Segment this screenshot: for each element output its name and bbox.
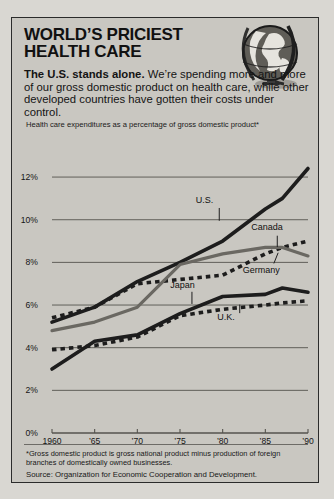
divider <box>24 444 308 445</box>
deck-text: The U.S. stands alone. We’re spending mo… <box>24 68 310 118</box>
y-axis-tick-label: 12% <box>12 172 38 182</box>
series-label-uk: U.K. <box>217 312 235 322</box>
series-label-us: U.S. <box>196 195 214 205</box>
y-axis-tick-label: 6% <box>12 300 38 310</box>
y-axis-tick-label: 10% <box>12 215 38 225</box>
series-label-canada: Canada <box>251 222 283 232</box>
source-line: Source: Organization for Economic Cooper… <box>26 470 306 479</box>
y-axis-tick-label: 4% <box>12 343 38 353</box>
series-label-germany: Germany <box>243 265 280 275</box>
headline-line-1: WORLD’S PRICIEST <box>24 26 234 43</box>
y-axis-tick-label: 2% <box>12 385 38 395</box>
headline-line-2: HEALTH CARE <box>24 43 234 60</box>
series-label-japan: Japan <box>170 280 195 290</box>
footnote: *Gross domestic product is gross nationa… <box>26 450 306 467</box>
deck-lead: The U.S. stands alone. <box>24 68 145 80</box>
series-japan <box>52 288 308 369</box>
series-us <box>52 169 308 323</box>
chart-subtitle: Health care expenditures as a percentage… <box>26 120 306 129</box>
y-axis-tick-label: 8% <box>12 257 38 267</box>
line-chart: 0%2%4%6%8%10%12%1960’65’70’75’80’85’90U.… <box>26 130 314 440</box>
page-title: WORLD’S PRICIEST HEALTH CARE <box>24 26 234 60</box>
infographic-card: WORLD’S PRICIEST HEALTH CARE The U.S. st… <box>11 17 319 483</box>
